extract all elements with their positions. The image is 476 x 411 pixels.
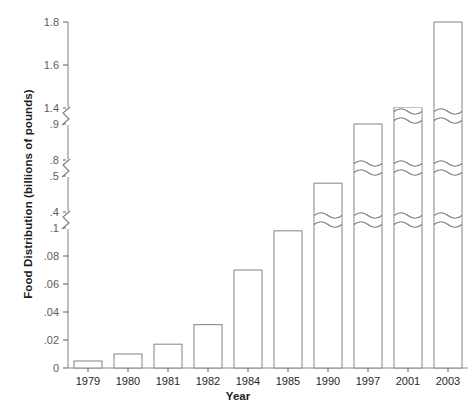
y-tick-label: .5 [50,170,59,182]
x-axis-ticks: 1979198019811982198419851990199720012003 [76,368,460,387]
x-tick-label: 1981 [156,375,180,387]
bar-break-mask [355,212,381,228]
y-axis-ticks: 0.02.04.06.08.1.4.5.8.91.41.61.8 [44,16,68,374]
x-tick-label: 1990 [316,375,340,387]
x-tick-label: 1984 [236,375,260,387]
x-tick-label: 1985 [276,375,300,387]
bar-break-mask [395,212,421,228]
y-tick-label: 1.4 [44,102,59,114]
plot-area: 0.02.04.06.08.1.4.5.8.91.41.61.8 1979198… [0,0,476,411]
y-tick-label: .02 [44,334,59,346]
y-tick-label: .1 [50,222,59,234]
y-tick-label: .04 [44,306,59,318]
x-tick-label: 1997 [356,375,380,387]
bar [114,354,142,368]
y-tick-label: .4 [50,206,59,218]
bar [74,361,102,368]
y-tick-label: 0 [53,362,59,374]
y-tick-label: .8 [50,154,59,166]
bar [434,22,462,368]
y-tick-label: 1.6 [44,59,59,71]
bar-break-mask [395,108,421,124]
bar [394,108,422,368]
x-tick-label: 2003 [436,375,460,387]
x-tick-label: 1979 [76,375,100,387]
y-tick-label: 1.8 [44,16,59,28]
y-tick-label: .9 [50,118,59,130]
bar-break-mask [435,108,461,124]
chart-container: Food Distribution (billions of pounds) Y… [0,0,476,411]
x-tick-label: 2001 [396,375,420,387]
bar-break-mask [355,160,381,176]
y-tick-label: .08 [44,250,59,262]
bar-break-mask [315,212,341,228]
y-tick-label: .06 [44,278,59,290]
bar [314,183,342,368]
bar-break-mask [435,160,461,176]
bar-series [74,22,462,368]
bar [154,344,182,368]
bar-break-mask [395,160,421,176]
x-tick-label: 1982 [196,375,220,387]
x-tick-label: 1980 [116,375,140,387]
bar [194,325,222,368]
bar-break-mask [435,212,461,228]
bar [274,231,302,368]
bar [234,270,262,368]
y-axis-break-marks [62,107,72,229]
